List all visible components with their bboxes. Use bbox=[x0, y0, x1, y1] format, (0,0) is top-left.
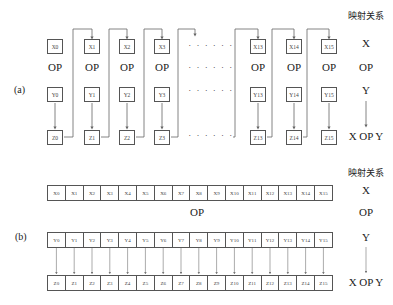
b-legend-result: X OP Y bbox=[349, 276, 384, 288]
panel-b-arrows bbox=[0, 0, 393, 305]
b-legend-x: X bbox=[362, 184, 370, 196]
b-legend-y: Y bbox=[362, 231, 370, 243]
b-legend-op: OP bbox=[359, 206, 373, 218]
